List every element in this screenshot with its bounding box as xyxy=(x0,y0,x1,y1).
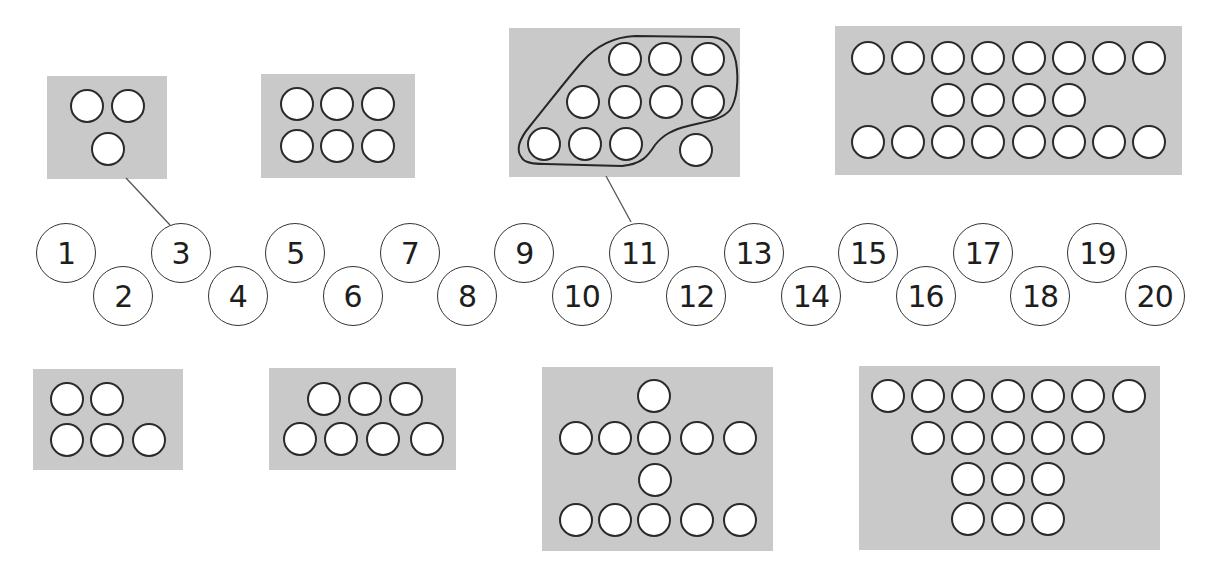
counter-dot xyxy=(70,89,104,123)
number-circle-14[interactable]: 14 xyxy=(781,266,841,326)
counter-dot xyxy=(410,422,444,456)
number-label: 18 xyxy=(1022,279,1058,314)
counter-dot xyxy=(1012,83,1046,117)
counter-dot xyxy=(1132,125,1166,159)
number-label: 20 xyxy=(1137,279,1173,314)
counter-dot xyxy=(991,421,1025,455)
counter-dot xyxy=(90,423,124,457)
number-label: 7 xyxy=(401,236,419,271)
counter-dot xyxy=(566,85,600,119)
number-label: 14 xyxy=(793,279,829,314)
number-label: 17 xyxy=(965,236,1001,271)
counter-dot xyxy=(307,382,341,416)
number-label: 15 xyxy=(850,236,886,271)
counter-dot xyxy=(971,125,1005,159)
counter-dot xyxy=(971,41,1005,75)
number-circle-7[interactable]: 7 xyxy=(380,223,440,283)
number-label: 11 xyxy=(621,236,657,271)
connector-line-11 xyxy=(606,176,631,222)
counter-dot xyxy=(320,87,354,121)
number-circle-13[interactable]: 13 xyxy=(724,223,784,283)
number-circle-6[interactable]: 6 xyxy=(323,266,383,326)
number-label: 13 xyxy=(736,236,772,271)
number-label: 2 xyxy=(114,279,132,314)
number-circle-18[interactable]: 18 xyxy=(1010,266,1070,326)
counter-dot xyxy=(931,83,965,117)
counter-dot xyxy=(1052,41,1086,75)
counter-dot xyxy=(348,382,382,416)
counter-dot xyxy=(1132,41,1166,75)
counter-dot xyxy=(1012,41,1046,75)
connector-lines xyxy=(126,176,631,225)
counter-dot xyxy=(637,503,671,537)
counter-dot xyxy=(971,83,1005,117)
number-circle-17[interactable]: 17 xyxy=(953,223,1013,283)
counter-dot xyxy=(1031,502,1065,536)
counter-dot xyxy=(680,421,714,455)
number-label: 8 xyxy=(458,279,476,314)
counter-dot xyxy=(691,42,725,76)
counter-dot xyxy=(911,421,945,455)
number-circle-11[interactable]: 11 xyxy=(609,223,669,283)
number-label: 16 xyxy=(907,279,943,314)
number-circle-9[interactable]: 9 xyxy=(494,223,554,283)
number-circle-19[interactable]: 19 xyxy=(1067,223,1127,283)
counter-dot xyxy=(132,423,166,457)
counter-dot xyxy=(90,382,124,416)
counter-dot xyxy=(559,503,593,537)
counter-dot xyxy=(1031,421,1065,455)
counter-dot xyxy=(851,125,885,159)
number-circle-20[interactable]: 20 xyxy=(1125,266,1185,326)
counter-dot xyxy=(1092,41,1126,75)
counter-dot xyxy=(320,129,354,163)
counter-dot xyxy=(951,379,985,413)
counter-dot xyxy=(598,503,632,537)
counter-dot xyxy=(680,503,714,537)
counter-dot xyxy=(283,422,317,456)
counter-dot xyxy=(638,463,672,497)
number-label: 6 xyxy=(343,279,361,314)
number-circle-3[interactable]: 3 xyxy=(151,223,211,283)
counter-dot xyxy=(951,462,985,496)
counter-dot xyxy=(1071,421,1105,455)
counter-dot xyxy=(527,127,561,161)
counter-dot xyxy=(1052,125,1086,159)
counter-dot xyxy=(50,423,84,457)
counter-dot xyxy=(1031,462,1065,496)
counter-dot xyxy=(951,421,985,455)
number-circle-16[interactable]: 16 xyxy=(896,266,956,326)
number-label: 10 xyxy=(564,279,600,314)
number-label: 5 xyxy=(286,236,304,271)
number-circle-4[interactable]: 4 xyxy=(208,266,268,326)
number-label: 4 xyxy=(229,279,247,314)
number-circle-15[interactable]: 15 xyxy=(838,223,898,283)
number-circle-12[interactable]: 12 xyxy=(666,266,726,326)
counter-dot xyxy=(389,382,423,416)
number-circle-10[interactable]: 10 xyxy=(552,266,612,326)
dot-box-20[interactable] xyxy=(835,26,1182,175)
counter-dot xyxy=(637,379,671,413)
counter-dot xyxy=(608,85,642,119)
counter-dot xyxy=(91,132,125,166)
number-circle-1[interactable]: 1 xyxy=(36,223,96,283)
counter-dot xyxy=(1031,379,1065,413)
counter-dot xyxy=(280,87,314,121)
counter-dot xyxy=(568,127,602,161)
number-circle-2[interactable]: 2 xyxy=(93,266,153,326)
counter-dot xyxy=(991,502,1025,536)
counter-dot xyxy=(598,421,632,455)
counter-dot xyxy=(324,422,358,456)
number-circle-5[interactable]: 5 xyxy=(265,223,325,283)
counter-dot xyxy=(111,89,145,123)
counter-dot xyxy=(931,125,965,159)
counter-dot xyxy=(723,503,757,537)
counter-dot xyxy=(1071,379,1105,413)
number-label: 1 xyxy=(57,236,75,271)
counter-dot xyxy=(951,502,985,536)
counter-dot xyxy=(679,133,713,167)
counter-dot xyxy=(911,379,945,413)
counter-dot xyxy=(891,125,925,159)
number-label: 3 xyxy=(172,236,190,271)
number-circle-8[interactable]: 8 xyxy=(437,266,497,326)
counter-dot xyxy=(891,41,925,75)
